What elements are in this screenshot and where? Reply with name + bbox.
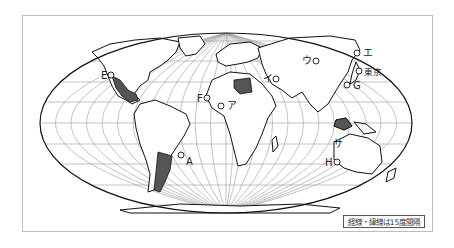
label-F: F: [197, 94, 203, 104]
label-E: E: [101, 71, 107, 81]
marker-u: [313, 58, 319, 64]
label-e: エ: [363, 48, 373, 58]
label-i: イ: [263, 74, 273, 84]
marker-G: [344, 82, 350, 88]
graticule-legend: 経線・緯線は15度間隔: [343, 215, 425, 228]
label-A: A: [186, 157, 193, 167]
marker-E: [108, 72, 114, 78]
label-sa: サ: [333, 139, 343, 149]
label-u: ウ: [302, 56, 312, 66]
label-tokyo: 東京: [364, 68, 382, 77]
marker-F: [204, 95, 210, 101]
label-a: ア: [227, 101, 237, 111]
label-G: G: [353, 81, 361, 91]
marker-H: [334, 159, 340, 165]
world-map: [0, 0, 454, 248]
marker-i: [273, 76, 279, 82]
marker-a: [218, 103, 224, 109]
label-H: H: [325, 158, 333, 168]
marker-tokyo: [356, 68, 362, 74]
marker-e: [354, 50, 360, 56]
marker-A: [178, 152, 184, 158]
